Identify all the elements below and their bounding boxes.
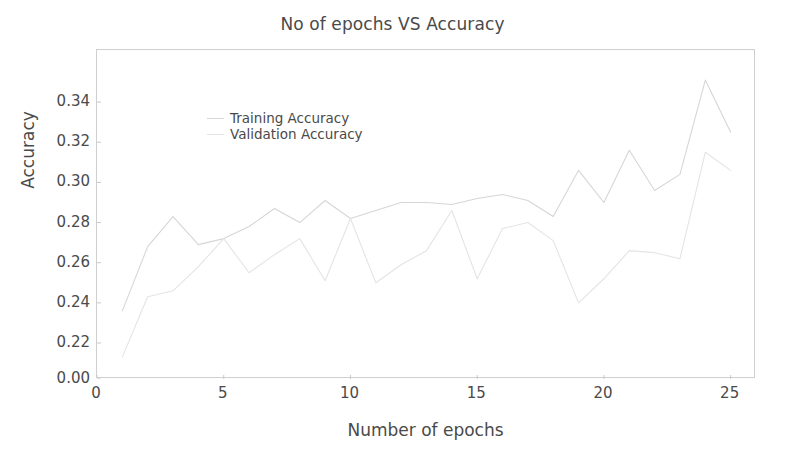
x-tick-label: 20: [583, 384, 623, 402]
legend-item-training: Training Accuracy: [207, 110, 363, 126]
x-tick-label: 15: [456, 384, 496, 402]
series-line-validation: [122, 152, 730, 357]
y-tick-label: 0.32: [30, 132, 90, 150]
plot-area: Training Accuracy Validation Accuracy: [96, 49, 755, 378]
y-tick-label: 0.30: [30, 172, 90, 190]
chart-legend: Training Accuracy Validation Accuracy: [203, 108, 367, 144]
y-tick-label: 0.34: [30, 92, 90, 110]
x-tick-label: 10: [329, 384, 369, 402]
x-tick-label: 5: [203, 384, 243, 402]
legend-label-training: Training Accuracy: [230, 110, 349, 126]
y-tick-label: 0.22: [30, 333, 90, 351]
chart-figure: No of epochs VS Accuracy Accuracy Number…: [0, 0, 785, 460]
chart-title: No of epochs VS Accuracy: [0, 14, 785, 34]
x-tick-label: 25: [710, 384, 750, 402]
legend-line-icon-validation: [207, 134, 224, 135]
series-canvas: [97, 50, 756, 379]
legend-label-validation: Validation Accuracy: [230, 126, 363, 142]
legend-item-validation: Validation Accuracy: [207, 126, 363, 142]
y-tick-label: 0.28: [30, 213, 90, 231]
y-tick-label: 0.26: [30, 253, 90, 271]
legend-line-icon-training: [207, 118, 224, 119]
x-tick-label: 0: [76, 384, 116, 402]
y-tick-label: 0.24: [30, 293, 90, 311]
x-axis-label: Number of epochs: [96, 420, 755, 440]
